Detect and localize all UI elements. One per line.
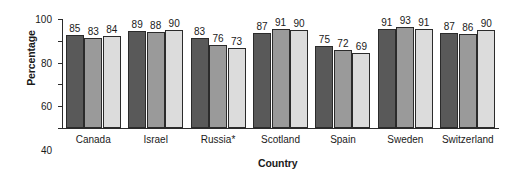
bar-value-label: 69 — [356, 41, 367, 52]
bar: 91 — [272, 29, 290, 128]
plot-area: 020406080100 858384Canada898890Israel837… — [62, 19, 499, 128]
bar-value-label: 88 — [150, 20, 161, 31]
bar: 75 — [315, 46, 333, 128]
bar-value-label: 83 — [194, 26, 205, 37]
bar: 76 — [209, 45, 227, 128]
bar: 83 — [191, 38, 209, 128]
y-tick-mark: 0 — [58, 128, 62, 129]
y-tick-mark: 20 — [58, 106, 62, 107]
y-axis-line — [62, 19, 63, 128]
bar: 90 — [477, 30, 495, 128]
x-axis-title: Country — [258, 157, 298, 169]
bar-value-label: 76 — [213, 33, 224, 44]
bar-group: 858384Canada — [66, 19, 121, 128]
bar: 91 — [378, 29, 396, 128]
x-axis-line — [62, 128, 499, 129]
bar-group: 898890Israel — [128, 19, 183, 128]
bar: 86 — [459, 34, 477, 128]
bar-value-label: 73 — [231, 36, 242, 47]
bar: 84 — [103, 36, 121, 128]
bar-group: 878690Switzerland — [440, 19, 495, 128]
bar: 90 — [290, 30, 308, 128]
y-tick-mark: 100 — [58, 19, 62, 20]
y-tick-mark: 60 — [58, 63, 62, 64]
bar: 89 — [128, 31, 146, 128]
bar-group: 837673Russia* — [191, 19, 246, 128]
bar-value-label: 91 — [381, 17, 392, 28]
bar: 87 — [253, 33, 271, 128]
x-tick-label: Scotland — [261, 134, 300, 145]
y-tick-label: 100 — [35, 14, 52, 25]
y-tick-mark: 40 — [58, 84, 62, 85]
x-tick-label: Israel — [143, 134, 167, 145]
bar-value-label: 72 — [337, 38, 348, 49]
y-tick-label: 60 — [41, 101, 52, 112]
bar: 69 — [352, 53, 370, 128]
bar-value-label: 89 — [132, 19, 143, 30]
bar-value-label: 90 — [169, 18, 180, 29]
bar-group: 879190Scotland — [253, 19, 308, 128]
bar-value-label: 83 — [88, 26, 99, 37]
x-tick-label: Spain — [330, 134, 356, 145]
bar: 85 — [66, 35, 84, 128]
y-tick-mark: 80 — [58, 41, 62, 42]
bar-value-label: 87 — [256, 21, 267, 32]
y-tick-label: 40 — [41, 144, 52, 155]
bar-value-label: 84 — [106, 24, 117, 35]
bar: 87 — [440, 33, 458, 128]
x-tick-label: Russia* — [201, 134, 235, 145]
bar-group: 919391Sweden — [378, 19, 433, 128]
bar: 93 — [396, 27, 414, 128]
bar-value-label: 93 — [400, 15, 411, 26]
x-tick-label: Canada — [76, 134, 111, 145]
bar: 91 — [415, 29, 433, 128]
bar-value-label: 87 — [444, 21, 455, 32]
bar-value-label: 86 — [462, 22, 473, 33]
bar-value-label: 75 — [319, 34, 330, 45]
bar: 73 — [228, 48, 246, 128]
x-tick-label: Sweden — [387, 134, 423, 145]
bar-value-label: 90 — [481, 18, 492, 29]
bar-value-label: 91 — [275, 17, 286, 28]
bar-value-label: 90 — [293, 18, 304, 29]
bar-value-label: 85 — [69, 23, 80, 34]
bar-chart: Percentage 020406080100 858384Canada8988… — [0, 0, 515, 180]
bar: 72 — [334, 50, 352, 128]
bar-value-label: 91 — [418, 17, 429, 28]
bar: 88 — [147, 32, 165, 128]
x-tick-label: Switzerland — [442, 134, 494, 145]
bar: 83 — [84, 38, 102, 128]
y-tick-label: 80 — [41, 57, 52, 68]
bar: 90 — [165, 30, 183, 128]
bar-group: 757269Spain — [315, 19, 370, 128]
